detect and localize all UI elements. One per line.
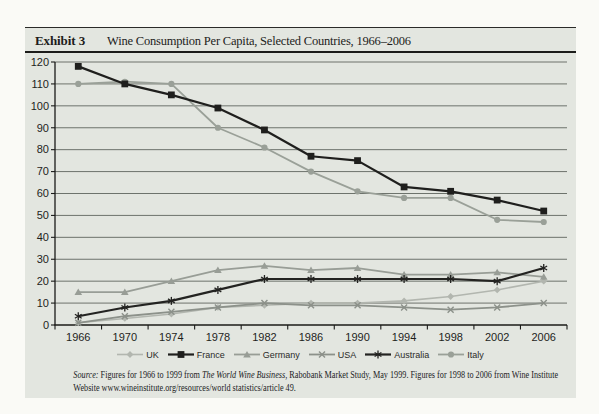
y-tick-label: 100 bbox=[31, 100, 49, 112]
x-tick-label: 1986 bbox=[299, 331, 323, 343]
chart-legend: UKFranceGermanyUSAAustraliaItaly bbox=[25, 347, 576, 362]
y-tick-label: 10 bbox=[37, 297, 49, 309]
axes bbox=[54, 62, 567, 330]
legend-item-uk: UK bbox=[117, 349, 159, 360]
source-work-title: The World Wine Business bbox=[202, 369, 285, 380]
x-tick-label: 2002 bbox=[485, 331, 509, 343]
y-tick-label: 110 bbox=[31, 78, 49, 90]
x-tick-label: 1994 bbox=[392, 331, 416, 343]
legend-label: Germany bbox=[263, 350, 300, 360]
y-tick-label: 60 bbox=[37, 187, 49, 199]
x-tick-label: 2006 bbox=[531, 331, 555, 343]
y-tick-label: 120 bbox=[31, 56, 49, 68]
y-tick-label: 20 bbox=[37, 275, 49, 287]
y-axis-labels: 0102030405060708090100110120 bbox=[31, 56, 55, 331]
source-note: Source: Figures for 1966 to 1999 from Th… bbox=[25, 368, 573, 394]
legend-label: Australia bbox=[394, 350, 429, 360]
x-axis-labels: 1966197019741978198219861990199419982002… bbox=[66, 331, 556, 343]
exhibit-panel: Exhibit 3Wine Consumption Per Capita, Se… bbox=[25, 27, 576, 398]
legend-item-italy: Italy bbox=[438, 349, 484, 360]
legend-label: UK bbox=[146, 350, 159, 360]
source-line-2: Website www.wineinstitute.org/resources/… bbox=[73, 381, 572, 394]
exhibit-header: Exhibit 3Wine Consumption Per Capita, Se… bbox=[25, 27, 576, 53]
y-tick-label: 70 bbox=[37, 165, 49, 177]
source-text-2: , Rabobank Market Study, May 1999. Figur… bbox=[285, 369, 558, 380]
france-square-marker-icon bbox=[168, 349, 194, 360]
legend-item-australia: Australia bbox=[365, 349, 429, 360]
exhibit-label: Exhibit 3 bbox=[35, 33, 85, 48]
exhibit-title: Wine Consumption Per Capita, Selected Co… bbox=[107, 34, 411, 48]
legend-label: France bbox=[197, 350, 225, 360]
series-italy bbox=[75, 79, 547, 225]
usa-x-marker-icon bbox=[309, 349, 335, 360]
source-line-1: Source: Figures for 1966 to 1999 from Th… bbox=[73, 368, 572, 381]
source-text-1: Figures for 1966 to 1999 from bbox=[99, 369, 203, 380]
page-background: { "page": { "background": "#fafaf6" }, "… bbox=[0, 0, 599, 414]
legend-item-france: France bbox=[168, 349, 225, 360]
australia-asterisk-marker-icon bbox=[365, 349, 391, 360]
y-tick-label: 80 bbox=[37, 143, 49, 155]
source-label: Source: bbox=[73, 369, 98, 380]
germany-triangle-marker-icon bbox=[234, 349, 260, 360]
x-tick-label: 1974 bbox=[159, 331, 183, 343]
series-uk bbox=[75, 278, 547, 326]
y-tick-label: 0 bbox=[43, 319, 49, 331]
x-tick-label: 1990 bbox=[345, 331, 369, 343]
y-tick-label: 40 bbox=[37, 231, 49, 243]
x-tick-label: 1966 bbox=[66, 331, 90, 343]
legend-item-germany: Germany bbox=[234, 349, 300, 360]
italy-circle-marker-icon bbox=[438, 349, 464, 360]
legend-item-usa: USA bbox=[309, 349, 357, 360]
x-tick-label: 1978 bbox=[206, 331, 230, 343]
x-tick-label: 1998 bbox=[438, 331, 462, 343]
x-tick-label: 1970 bbox=[113, 331, 137, 343]
x-tick-label: 1982 bbox=[252, 331, 276, 343]
legend-label: USA bbox=[338, 350, 357, 360]
y-tick-label: 50 bbox=[37, 209, 49, 221]
y-tick-label: 90 bbox=[37, 122, 49, 134]
wine-consumption-chart: 0102030405060708090100110120196619701974… bbox=[25, 53, 576, 347]
series-france bbox=[75, 63, 547, 214]
y-tick-label: 30 bbox=[37, 253, 49, 265]
uk-diamond-marker-icon bbox=[117, 349, 143, 360]
legend-label: Italy bbox=[467, 350, 484, 360]
